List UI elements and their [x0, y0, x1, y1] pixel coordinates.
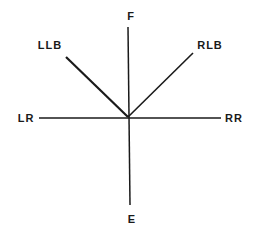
label-rr: RR	[225, 112, 243, 124]
llb-ray	[66, 57, 128, 117]
label-lr: LR	[18, 112, 35, 124]
label-rlb: RLB	[197, 39, 223, 51]
label-llb: LLB	[38, 39, 62, 51]
direction-diagram: F E LLB RLB LR RR	[0, 0, 255, 237]
label-e: E	[128, 213, 136, 225]
rlb-ray	[128, 53, 193, 117]
label-f: F	[127, 10, 135, 22]
